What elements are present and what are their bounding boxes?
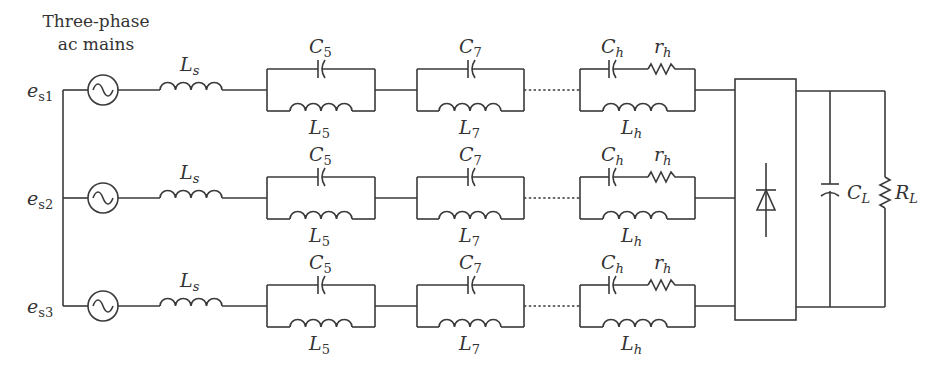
diode-icon	[756, 163, 776, 237]
svg-text:C7: C7	[459, 251, 482, 276]
svg-text:Ch: Ch	[601, 251, 624, 276]
svg-text:C7: C7	[459, 143, 482, 168]
source-label-2: es2	[27, 187, 53, 212]
filter-h: Ch rh Lh	[580, 143, 695, 249]
ac-source-icon	[88, 183, 118, 213]
svg-text:C5: C5	[309, 251, 332, 276]
ac-source-icon	[88, 291, 118, 321]
three-phase-harmonic-filter-circuit: Three-phase ac mains es1 Ls C5 L5	[0, 0, 942, 383]
line-inductor-icon	[160, 83, 222, 90]
line-inductor-label: Ls	[179, 53, 200, 78]
svg-text:C5: C5	[309, 143, 332, 168]
svg-text:Lh: Lh	[620, 332, 642, 357]
svg-text:Lh: Lh	[620, 224, 642, 249]
svg-text:rh: rh	[654, 143, 671, 168]
filter-7: C7 L7	[417, 251, 524, 357]
svg-text:Ch: Ch	[601, 35, 624, 60]
svg-text:L7: L7	[458, 224, 480, 249]
svg-text:rh: rh	[654, 251, 671, 276]
svg-text:L5: L5	[308, 116, 330, 141]
title-line-1: Three-phase	[42, 11, 149, 31]
filter-7: C7 L7	[417, 143, 524, 249]
title-line-2: ac mains	[58, 34, 134, 54]
inductor-icon	[603, 104, 667, 111]
line-inductor-icon	[160, 191, 222, 199]
filter-5: C5 L5	[267, 251, 375, 357]
filter-7: C7 L7	[417, 35, 524, 141]
resistor-icon	[880, 177, 890, 208]
filter-h: Ch rh Lh	[580, 35, 695, 141]
svg-text:Ch: Ch	[601, 143, 624, 168]
svg-text:Lh: Lh	[620, 116, 642, 141]
phase-row-2: es2 Ls C5 L5	[27, 143, 735, 249]
inductor-icon	[439, 104, 501, 111]
svg-text:CL: CL	[847, 181, 870, 206]
svg-text:L7: L7	[458, 116, 480, 141]
source-label-1: es1	[27, 79, 53, 104]
filter-5: C5 L5	[267, 35, 375, 141]
svg-text:Ls: Ls	[179, 161, 200, 186]
line-inductor-icon	[160, 299, 222, 307]
svg-text:L5: L5	[308, 332, 330, 357]
svg-text:C7: C7	[459, 35, 482, 60]
resistor-icon	[648, 64, 695, 74]
inductor-icon	[290, 104, 352, 111]
svg-text:L5: L5	[308, 224, 330, 249]
svg-text:rh: rh	[654, 35, 671, 60]
phase-row-3: es3 Ls C5 L5	[27, 251, 735, 357]
ac-source-icon	[88, 75, 118, 105]
svg-text:L7: L7	[458, 332, 480, 357]
load-capacitor: CL	[821, 91, 870, 307]
dc-load: CL RL	[796, 91, 918, 307]
rectifier-block	[735, 79, 796, 320]
filter-5: C5 L5	[267, 143, 375, 249]
filter-h: Ch rh Lh	[580, 251, 695, 357]
source-label-3: es3	[27, 295, 53, 320]
svg-text:C5: C5	[309, 35, 332, 60]
load-resistor: RL	[880, 91, 918, 307]
svg-text:RL: RL	[894, 181, 918, 206]
svg-text:Ls: Ls	[179, 269, 200, 294]
